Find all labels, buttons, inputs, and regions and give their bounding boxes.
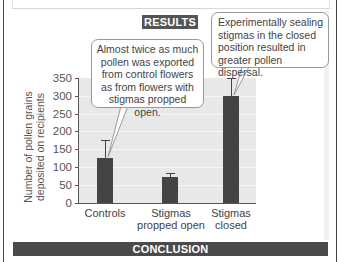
callout-line: stigmas propped open. (96, 93, 199, 118)
callout-controls: Almost twice as much pollen was exported… (91, 39, 204, 108)
callout-line: stigmas in the closed (218, 29, 324, 42)
callout-line: pollen was exported (96, 56, 199, 69)
callout-line: Almost twice as much (96, 43, 199, 56)
callout-line: Experimentally sealing (218, 16, 324, 29)
callout-closed: Experimentally sealing stigmas in the cl… (211, 12, 329, 68)
callout-line: from control flowers (96, 68, 199, 81)
callout-line: as from flowers with (96, 81, 199, 94)
callout-line: greater pollen dispersal. (218, 54, 324, 79)
conclusion-section-label: CONCLUSION (13, 242, 328, 256)
callout-line: position resulted in (218, 41, 324, 54)
